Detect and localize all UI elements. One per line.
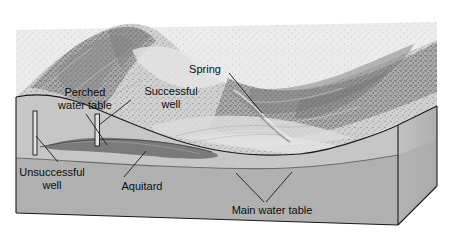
label-aquitard: Aquitard xyxy=(114,180,170,193)
label-successful-well: Successful well xyxy=(135,85,207,110)
label-unsuccessful-well: Unsuccessful well xyxy=(10,166,94,191)
unsuccessful-well-casing xyxy=(33,111,37,155)
block-side-face-shadow xyxy=(398,140,437,225)
groundwater-block-diagram: Perched water table Successful well Spri… xyxy=(0,0,458,241)
label-perched-water-table: Perched water table xyxy=(48,86,122,111)
unsuccessful-well-shaft xyxy=(33,111,37,155)
label-spring: Spring xyxy=(182,63,228,76)
label-main-water-table: Main water table xyxy=(222,204,322,217)
